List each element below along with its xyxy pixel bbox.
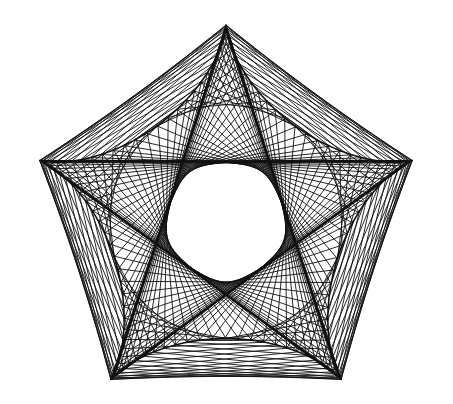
chord-line [220, 48, 328, 320]
chord-line [101, 42, 229, 155]
string-art-figure [0, 0, 453, 404]
chord-line [223, 41, 352, 154]
chord-lines [40, 25, 413, 380]
chord-line [42, 161, 114, 374]
chord-line [340, 163, 407, 377]
chord-line [135, 65, 240, 140]
star-string-art [0, 0, 453, 404]
chord-line [123, 72, 208, 369]
chord-line [194, 91, 337, 259]
